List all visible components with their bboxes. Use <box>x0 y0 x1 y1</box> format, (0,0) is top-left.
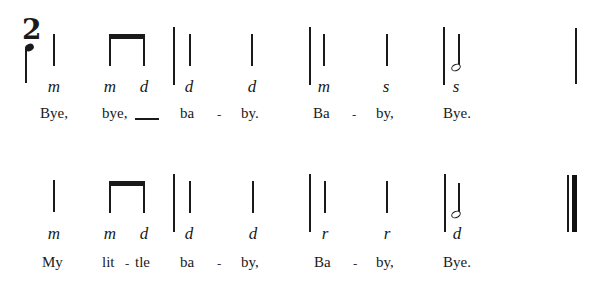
half-note-head-icon <box>450 62 462 73</box>
solfa-syllable: d <box>453 225 462 242</box>
time-signature-top: 2 <box>22 16 41 44</box>
note-stem <box>189 34 191 66</box>
lyric-word: My <box>42 255 63 270</box>
note-stem <box>323 34 325 66</box>
lyric-word: Bye. <box>443 255 471 270</box>
lyric-word: bye, <box>102 106 127 121</box>
solfa-syllable: m <box>48 225 60 242</box>
lyric-hyphen: - <box>353 257 357 270</box>
half-note-head-icon <box>450 209 462 220</box>
eighth-beam <box>109 181 145 186</box>
lyric-hyphen: - <box>217 257 221 270</box>
lyric-word: Bye, <box>40 106 68 121</box>
lyric-word: by, <box>241 255 259 270</box>
barline <box>443 27 445 85</box>
solfa-syllable: m <box>318 78 330 95</box>
final-barline-thick <box>572 175 577 232</box>
barline <box>309 27 311 85</box>
note-stem <box>324 181 326 213</box>
lyric-word: Ba <box>314 255 331 270</box>
solfa-syllable: s <box>453 78 460 95</box>
lyric-word: by, <box>376 255 394 270</box>
barline <box>173 27 175 85</box>
solfa-syllable: d <box>140 78 149 95</box>
solfa-syllable: m <box>104 78 116 95</box>
note-stem <box>189 181 191 213</box>
solfa-syllable: s <box>383 78 390 95</box>
barline <box>444 174 446 232</box>
solfa-syllable: d <box>185 78 194 95</box>
barline <box>575 28 577 84</box>
barline <box>309 174 311 232</box>
solfa-syllable: m <box>104 225 116 242</box>
eighth-beam <box>109 34 145 39</box>
solfa-syllable: m <box>48 78 60 95</box>
solfa-syllable: d <box>248 78 257 95</box>
note-stem <box>252 181 254 213</box>
half-note-stem <box>458 34 460 66</box>
lyric-word: by, <box>376 106 394 121</box>
half-note-stem <box>458 183 460 213</box>
lyric-word: tle <box>135 255 150 270</box>
note-stem <box>53 34 55 66</box>
lyric-hyphen: - <box>125 257 129 270</box>
lyric-word: by. <box>241 106 259 121</box>
solfa-syllable: d <box>249 225 258 242</box>
lyric-word: ba <box>180 255 194 270</box>
final-barline-thin <box>567 175 569 232</box>
lyric-word: ba <box>180 106 194 121</box>
solfa-syllable: d <box>185 225 194 242</box>
solfa-syllable: d <box>140 225 149 242</box>
note-stem <box>386 181 388 213</box>
note-stem <box>53 180 55 212</box>
lyric-word: lit <box>102 255 115 270</box>
solfa-syllable: r <box>384 225 391 242</box>
note-stem <box>386 34 388 66</box>
lyric-extender <box>135 118 159 120</box>
solfa-syllable: r <box>322 225 329 242</box>
note-stem <box>251 34 253 66</box>
lyric-word: Ba <box>313 106 330 121</box>
lyric-hyphen: - <box>217 108 221 121</box>
barline <box>173 174 175 232</box>
lyric-hyphen: - <box>352 108 356 121</box>
lyric-word: Bye. <box>443 106 471 121</box>
